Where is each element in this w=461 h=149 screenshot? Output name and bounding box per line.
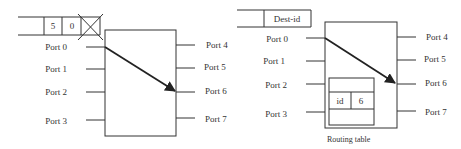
routing-entry-key: id bbox=[336, 96, 344, 106]
right-port-6: Port 6 bbox=[425, 78, 447, 88]
left-packet: 5 0 bbox=[18, 14, 103, 40]
left-port-2: Port 2 bbox=[45, 87, 67, 97]
right-port-0: Port 0 bbox=[266, 34, 288, 44]
x-mark-icon bbox=[78, 14, 103, 40]
packet-cell-0: 0 bbox=[70, 21, 75, 31]
right-switch-box bbox=[325, 22, 397, 128]
right-port-7: Port 7 bbox=[425, 107, 447, 117]
left-port-6: Port 6 bbox=[205, 86, 227, 96]
routing-diagram: 5 0 Port 0 Port 1 Port 2 Port 3 Port 4 P… bbox=[0, 0, 461, 149]
packet-cell-5: 5 bbox=[51, 21, 56, 31]
right-port-3: Port 3 bbox=[265, 109, 287, 119]
left-switch-box bbox=[105, 30, 176, 136]
left-port-7: Port 7 bbox=[205, 114, 227, 124]
left-route-arrow bbox=[105, 47, 175, 91]
left-switch: 5 0 Port 0 Port 1 Port 2 Port 3 Port 4 P… bbox=[18, 14, 228, 136]
left-port-1: Port 1 bbox=[45, 64, 67, 74]
dest-id-field: Dest-id bbox=[274, 14, 301, 24]
right-port-4: Port 4 bbox=[426, 32, 448, 42]
routing-table: id 6 bbox=[329, 78, 374, 125]
right-port-2: Port 2 bbox=[265, 80, 287, 90]
left-port-4: Port 4 bbox=[206, 40, 228, 50]
left-port-0: Port 0 bbox=[45, 42, 67, 52]
right-route-arrow bbox=[325, 38, 395, 83]
right-port-5: Port 5 bbox=[424, 54, 446, 64]
left-port-5: Port 5 bbox=[204, 62, 226, 72]
routing-table-caption: Routing table bbox=[327, 135, 371, 144]
right-packet: Dest-id bbox=[237, 10, 311, 27]
right-port-1: Port 1 bbox=[263, 56, 285, 66]
routing-entry-value: 6 bbox=[359, 96, 364, 106]
left-port-3: Port 3 bbox=[45, 116, 67, 126]
right-switch: Dest-id Port 0 Port 1 Port 2 Port 3 Port… bbox=[237, 10, 448, 144]
